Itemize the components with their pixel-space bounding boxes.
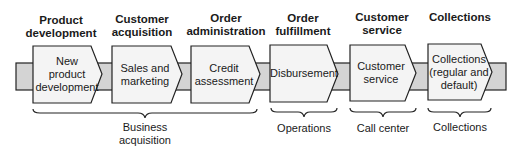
- brace-business-acquisition: [33, 109, 257, 118]
- group-collections: Collections: [420, 121, 500, 134]
- group-operations: Operations: [264, 122, 344, 135]
- header-product-development: Productdevelopment: [16, 14, 106, 40]
- box-label-disbursement: Disbursement: [270, 45, 338, 102]
- header-customer-acquisition: Customeracquisition: [97, 13, 187, 39]
- box-label-customer-service: Customerservice: [350, 45, 412, 101]
- brace-collections: [428, 108, 491, 117]
- group-business-acquisition: Businessacquisition: [105, 121, 185, 147]
- brace-operations: [271, 108, 337, 117]
- header-customer-service: Customerservice: [337, 11, 427, 37]
- box-label-collections: Collections(regular anddefault): [428, 44, 490, 100]
- box-label-credit-assessment: Creditassessment: [191, 46, 257, 103]
- header-order-fulfillment: Orderfulfillment: [258, 12, 348, 38]
- header-collections: Collections: [415, 11, 505, 24]
- box-label-new-product-development: Newproductdevelopment: [33, 46, 101, 103]
- brace-call-center: [350, 108, 416, 117]
- box-label-sales-and-marketing: Sales andmarketing: [112, 46, 178, 103]
- group-call-center: Call center: [343, 122, 423, 135]
